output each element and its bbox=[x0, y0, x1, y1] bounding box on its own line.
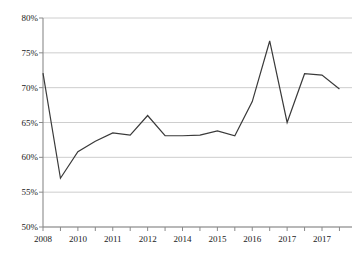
x-axis-label: 2008 bbox=[34, 234, 52, 244]
x-axis-label: 2010 bbox=[69, 234, 87, 244]
y-axis-label: 50% bbox=[2, 222, 38, 232]
x-axis-label: 2017 bbox=[278, 234, 296, 244]
plot-area bbox=[0, 0, 362, 261]
x-axis-label: 2012 bbox=[139, 234, 157, 244]
x-axis-label: 2011 bbox=[104, 234, 122, 244]
x-axis-label: 2016 bbox=[243, 234, 261, 244]
y-axis-label: 80% bbox=[2, 13, 38, 23]
y-axis-label: 60% bbox=[2, 152, 38, 162]
x-axis-ticks bbox=[43, 227, 339, 231]
y-axis-ticks bbox=[39, 18, 43, 227]
line-chart: 50%55%60%65%70%75%80% 200820102011201220… bbox=[0, 0, 362, 261]
y-axis-label: 65% bbox=[2, 118, 38, 128]
x-axis-label: 2015 bbox=[208, 234, 226, 244]
x-axis-label: 2014 bbox=[174, 234, 192, 244]
y-axis-label: 70% bbox=[2, 83, 38, 93]
x-axis-label: 2017 bbox=[313, 234, 331, 244]
y-axis-label: 55% bbox=[2, 187, 38, 197]
gridlines bbox=[43, 18, 352, 227]
y-axis-label: 75% bbox=[2, 48, 38, 58]
